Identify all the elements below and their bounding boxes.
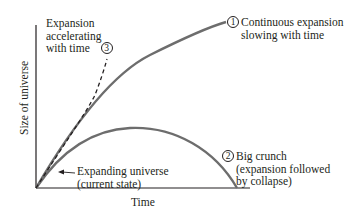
curve-1-number-badge: 1 bbox=[227, 16, 239, 28]
curve-3-number-badge: 3 bbox=[101, 42, 113, 54]
label-curve-2: 2Big crunch (expansion followed by colla… bbox=[222, 150, 330, 188]
arrow-head-icon bbox=[58, 170, 64, 175]
y-axis-label: Size of universe bbox=[18, 61, 30, 135]
label-current-state: Expanding universe (current state) bbox=[77, 165, 169, 190]
label-curve-3: Expansion accelerating with time 3 bbox=[46, 17, 115, 55]
label-curve-1: 1Continuous expansion slowing with time bbox=[227, 16, 344, 41]
curve-2-number-badge: 2 bbox=[222, 150, 234, 162]
x-axis-label: Time bbox=[131, 196, 155, 209]
